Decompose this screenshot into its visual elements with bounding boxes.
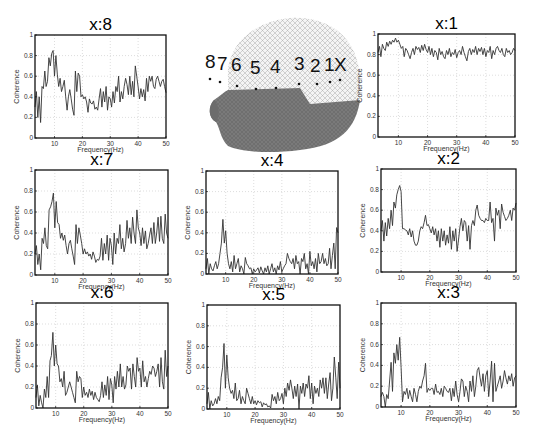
- svg-text:0.2: 0.2: [370, 382, 379, 389]
- y-axis-label: Coherence: [356, 68, 363, 102]
- svg-text:0.6: 0.6: [24, 208, 33, 215]
- svg-text:1: 1: [375, 299, 379, 306]
- svg-text:1: 1: [201, 301, 205, 308]
- svg-text:0: 0: [375, 403, 379, 410]
- svg-text:0.6: 0.6: [195, 208, 204, 215]
- y-axis-label: Coherence: [14, 338, 21, 372]
- svg-text:0.6: 0.6: [370, 206, 379, 213]
- svg-text:0.8: 0.8: [24, 187, 33, 194]
- svg-text:50: 50: [512, 409, 520, 416]
- panel-title: x:2: [381, 150, 516, 167]
- svg-text:1: 1: [200, 167, 204, 174]
- y-axis-label: Coherence: [184, 205, 191, 239]
- panel-title: x:5: [207, 286, 340, 303]
- svg-text:10: 10: [223, 411, 231, 418]
- panel-title: x:3: [381, 284, 516, 301]
- svg-text:0.4: 0.4: [195, 229, 204, 236]
- coherence-chart-x6: 102030405000.20.40.60.81Frequency(Hz)Coh…: [36, 303, 168, 408]
- svg-text:0.6: 0.6: [24, 72, 33, 79]
- svg-text:0.2: 0.2: [24, 250, 33, 257]
- svg-text:0.4: 0.4: [367, 92, 376, 99]
- coherence-chart-x5: 102030405000.20.40.60.81Frequency(Hz)Coh…: [207, 305, 340, 409]
- svg-text:10: 10: [395, 139, 403, 146]
- svg-text:10: 10: [397, 409, 405, 416]
- svg-text:0.4: 0.4: [196, 363, 205, 370]
- svg-text:40: 40: [482, 139, 490, 146]
- svg-text:0.6: 0.6: [25, 341, 34, 348]
- svg-text:7: 7: [217, 53, 228, 74]
- svg-text:0.2: 0.2: [367, 112, 376, 119]
- panel-title: x:8: [35, 16, 166, 33]
- svg-text:0.2: 0.2: [196, 384, 205, 391]
- svg-text:40: 40: [136, 410, 144, 417]
- svg-text:0.8: 0.8: [196, 322, 205, 329]
- svg-text:50: 50: [162, 140, 170, 147]
- svg-text:10: 10: [397, 274, 405, 281]
- svg-text:10: 10: [52, 410, 60, 417]
- svg-text:1: 1: [372, 30, 376, 37]
- svg-text:50: 50: [164, 410, 172, 417]
- svg-text:0: 0: [375, 268, 379, 275]
- coherence-chart-x7: 102030405000.20.40.60.81Frequency(Hz)Coh…: [35, 170, 168, 275]
- svg-text:0: 0: [29, 271, 33, 278]
- svg-text:0.6: 0.6: [196, 343, 205, 350]
- svg-text:0: 0: [200, 270, 204, 277]
- electrode-labels: 8 7 6 5 4 3 2 1 X: [205, 51, 347, 78]
- svg-text:50: 50: [512, 274, 520, 281]
- svg-text:6: 6: [231, 54, 242, 75]
- svg-text:1: 1: [30, 299, 34, 306]
- svg-text:1: 1: [324, 54, 335, 75]
- svg-text:2: 2: [310, 55, 321, 76]
- svg-text:0.6: 0.6: [370, 341, 379, 348]
- svg-text:8: 8: [205, 51, 216, 72]
- svg-text:0.8: 0.8: [25, 320, 34, 327]
- svg-text:X: X: [334, 54, 347, 75]
- coherence-chart-x1: 102030405000.20.40.60.81Frequency(Hz)Coh…: [378, 34, 515, 137]
- svg-text:0.2: 0.2: [370, 247, 379, 254]
- y-axis-label: Coherence: [13, 69, 20, 103]
- x-axis-label: Frequency(Hz): [79, 416, 125, 424]
- y-axis-label: Coherence: [185, 340, 192, 374]
- y-axis-label: Coherence: [359, 338, 366, 372]
- svg-text:0.2: 0.2: [25, 383, 34, 390]
- svg-text:0: 0: [372, 133, 376, 140]
- svg-text:0.8: 0.8: [195, 188, 204, 195]
- coherence-chart-x3: 102030405000.20.40.60.81Frequency(Hz)Coh…: [381, 303, 516, 407]
- svg-text:40: 40: [308, 411, 316, 418]
- svg-text:0.4: 0.4: [370, 227, 379, 234]
- head-mesh-icon: 8 7 6 5 4 3 2 1 X: [190, 8, 360, 158]
- svg-text:10: 10: [51, 277, 59, 284]
- svg-text:50: 50: [164, 277, 172, 284]
- svg-text:0: 0: [201, 405, 205, 412]
- svg-text:40: 40: [306, 276, 314, 283]
- coherence-line: [35, 193, 168, 270]
- svg-text:0.8: 0.8: [367, 51, 376, 58]
- y-axis-label: Coherence: [359, 203, 366, 237]
- svg-text:10: 10: [51, 140, 59, 147]
- y-axis-label: Coherence: [13, 205, 20, 239]
- svg-text:50: 50: [334, 276, 342, 283]
- panel-title: x:4: [206, 152, 338, 169]
- svg-text:0.4: 0.4: [24, 93, 33, 100]
- svg-text:10: 10: [222, 276, 230, 283]
- svg-text:0.2: 0.2: [24, 113, 33, 120]
- svg-text:0.4: 0.4: [24, 229, 33, 236]
- svg-text:40: 40: [484, 274, 492, 281]
- panel-title: x:7: [35, 151, 168, 168]
- svg-text:0: 0: [29, 134, 33, 141]
- svg-text:0.8: 0.8: [370, 320, 379, 327]
- svg-text:0.2: 0.2: [195, 249, 204, 256]
- x-axis-label: Frequency(Hz): [250, 417, 296, 425]
- svg-text:3: 3: [294, 53, 305, 74]
- svg-text:40: 40: [484, 409, 492, 416]
- panel-title: x:1: [378, 15, 515, 32]
- svg-text:0.6: 0.6: [367, 71, 376, 78]
- svg-text:0.4: 0.4: [370, 361, 379, 368]
- svg-text:40: 40: [135, 140, 143, 147]
- svg-text:50: 50: [511, 139, 519, 146]
- head-electrode-image: 8 7 6 5 4 3 2 1 X: [190, 8, 360, 158]
- coherence-chart-x4: 102030405000.20.40.60.81Frequency(Hz)Coh…: [206, 171, 338, 274]
- svg-text:0.8: 0.8: [370, 186, 379, 193]
- coherence-chart-x2: 102030405000.20.40.60.81Frequency(Hz)Coh…: [381, 169, 516, 272]
- svg-text:1: 1: [29, 31, 33, 38]
